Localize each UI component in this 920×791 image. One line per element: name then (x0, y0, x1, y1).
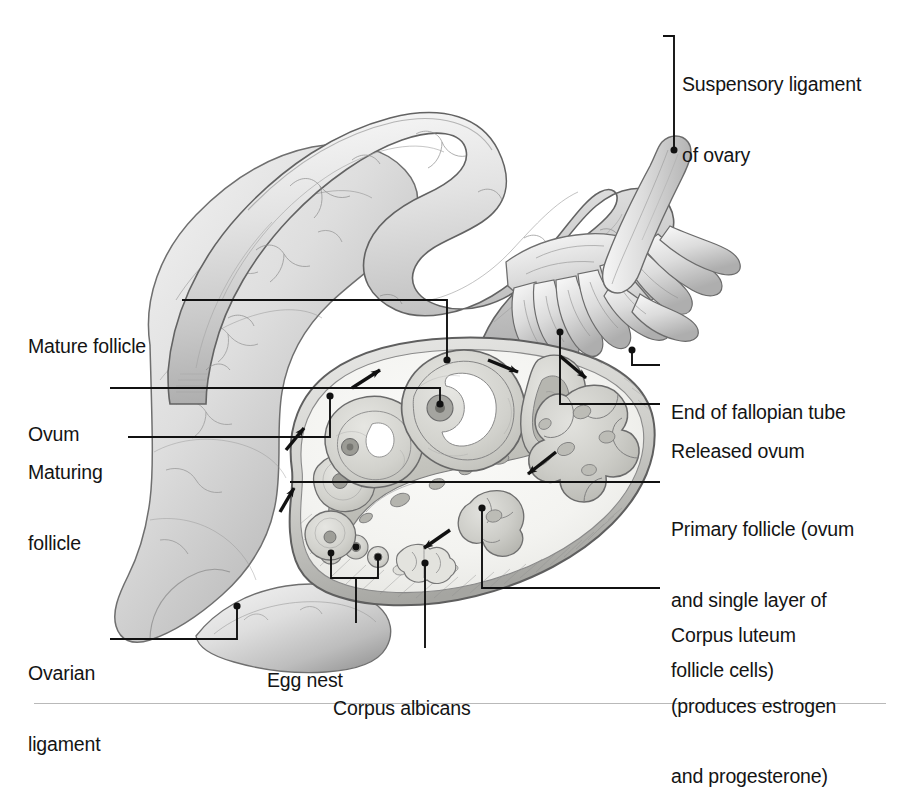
label-suspensory-ligament: Suspensory ligament of ovary (682, 26, 861, 191)
leader-suspensory-ligament (663, 36, 674, 150)
label-ovarian-ligament: Ovarian ligament (28, 615, 101, 780)
label-maturing-follicle: Maturing follicle (28, 414, 103, 579)
label-egg-nest: Egg nest (267, 622, 343, 716)
label-mature-follicle: Mature follicle (28, 288, 146, 382)
leader-end-fallopian-tube (632, 350, 660, 365)
label-corpus-albicans: Corpus albicans (333, 650, 471, 744)
ovary-cross-section (290, 338, 655, 606)
label-corpus-luteum: Corpus luteum (produces estrogen and pro… (671, 577, 836, 791)
